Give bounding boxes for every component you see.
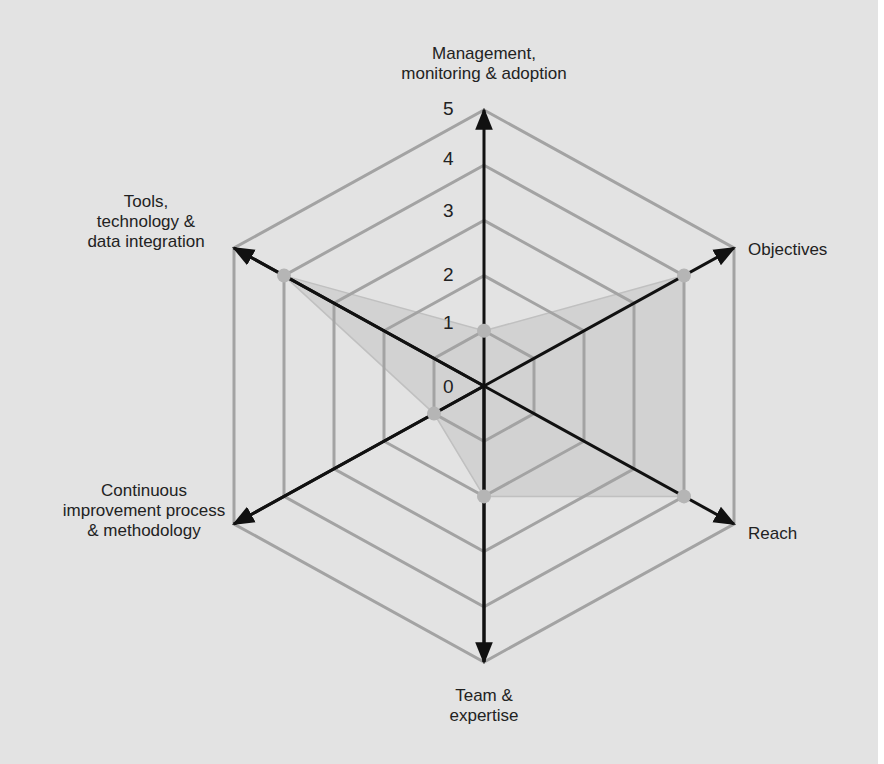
axis-label-tools: Tools, technology & data integration bbox=[66, 192, 226, 252]
data-point bbox=[677, 489, 691, 503]
axis-line bbox=[234, 386, 484, 524]
chart-panel: Management, monitoring & adoption Object… bbox=[0, 0, 878, 764]
scale-tick-2: 2 bbox=[443, 265, 454, 285]
data-point bbox=[277, 269, 291, 283]
data-point bbox=[427, 407, 441, 421]
scale-tick-0: 0 bbox=[443, 377, 454, 397]
data-point bbox=[477, 489, 491, 503]
radar-chart bbox=[0, 0, 878, 764]
scale-tick-1: 1 bbox=[443, 313, 454, 333]
axis-label-continuous: Continuous improvement process & methodo… bbox=[54, 481, 234, 541]
axis-label-objectives: Objectives bbox=[748, 240, 827, 260]
axis-label-reach: Reach bbox=[748, 524, 797, 544]
axis-label-team: Team & expertise bbox=[414, 686, 554, 726]
axis-label-management: Management, monitoring & adoption bbox=[384, 44, 584, 84]
data-point bbox=[477, 324, 491, 338]
scale-tick-4: 4 bbox=[443, 149, 454, 169]
scale-tick-3: 3 bbox=[443, 201, 454, 221]
scale-tick-5: 5 bbox=[443, 99, 454, 119]
data-point bbox=[677, 269, 691, 283]
